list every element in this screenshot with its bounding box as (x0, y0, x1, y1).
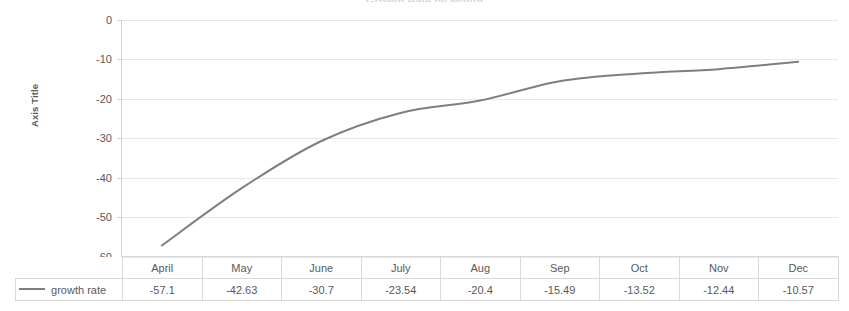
table-cell-aug: -20.4 (441, 279, 521, 301)
table-cell-nov: -12.44 (679, 279, 759, 301)
plot-area (122, 20, 838, 257)
table-header-june: June (282, 257, 362, 279)
table-cell-june: -30.7 (282, 279, 362, 301)
table-cell-dec: -10.57 (759, 279, 839, 301)
table-header-aug: Aug (441, 257, 521, 279)
series-path-growth-rate (162, 62, 798, 246)
legend-label: growth rate (51, 284, 106, 296)
y-tick-label-m40: -40 (72, 172, 112, 184)
series-line-growth-rate (122, 20, 838, 257)
table-header-april: April (123, 257, 203, 279)
table-header-july: July (361, 257, 441, 279)
y-tick-label-m50: -50 (72, 211, 112, 223)
legend-entry-growth-rate[interactable]: growth rate (16, 279, 123, 301)
chart-figure: Growth Rate by Month Axis Title 0 -10 -2… (0, 0, 849, 311)
table-header-sep: Sep (520, 257, 600, 279)
table-header-oct: Oct (600, 257, 680, 279)
table-header-dec: Dec (759, 257, 839, 279)
y-tick-label-0: 0 (72, 14, 112, 26)
y-tick-label-m20: -20 (72, 93, 112, 105)
table-cell-july: -23.54 (361, 279, 441, 301)
table-header-nov: Nov (679, 257, 759, 279)
chart-data-table: April May June July Aug Sep Oct Nov Dec … (15, 256, 839, 301)
table-cell-may: -42.63 (202, 279, 282, 301)
table-row: growth rate -57.1 -42.63 -30.7 -23.54 -2… (16, 279, 839, 301)
table-cell-april: -57.1 (123, 279, 203, 301)
table-cell-oct: -13.52 (600, 279, 680, 301)
legend-line-icon (19, 288, 45, 290)
table-cell-sep: -15.49 (520, 279, 600, 301)
y-tick-label-m30: -30 (72, 132, 112, 144)
table-header-may: May (202, 257, 282, 279)
table-corner-blank (16, 257, 123, 279)
y-tick-label-m10: -10 (72, 53, 112, 65)
table-header-row: April May June July Aug Sep Oct Nov Dec (16, 257, 839, 279)
